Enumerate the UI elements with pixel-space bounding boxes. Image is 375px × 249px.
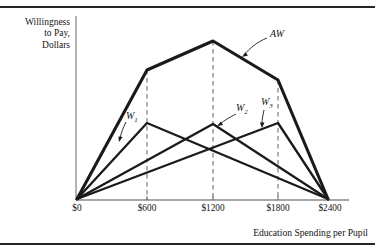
w1-arrowhead bbox=[118, 137, 122, 143]
curve-label-w2: W2 bbox=[236, 102, 248, 116]
w3-arrow bbox=[262, 110, 264, 124]
curve-label-w2-sub: 2 bbox=[244, 108, 248, 116]
aw-arrowhead bbox=[242, 52, 248, 57]
curve-label-w3: W3 bbox=[261, 96, 273, 110]
curve-label-w1-sub: 1 bbox=[134, 116, 138, 124]
y-axis-title: Willingness to Pay, Dollars bbox=[8, 17, 70, 51]
series-line-w3 bbox=[77, 123, 328, 199]
figure-container: Willingness to Pay, Dollars Education Sp… bbox=[0, 0, 375, 249]
x-tick-label-1800: $1800 bbox=[255, 203, 301, 213]
curve-label-w3-sub: 3 bbox=[269, 102, 273, 110]
series-line-w2 bbox=[77, 124, 328, 199]
x-tick-label-0: $0 bbox=[54, 203, 100, 213]
w1-arrow bbox=[120, 122, 126, 139]
x-tick-label-2400: $2400 bbox=[307, 203, 353, 213]
series-line-w1 bbox=[77, 123, 328, 199]
w2-arrow bbox=[220, 114, 236, 124]
aw-arrow bbox=[244, 38, 267, 55]
curve-label-aw-text: AW bbox=[270, 28, 284, 39]
x-tick-label-1200: $1200 bbox=[190, 203, 236, 213]
curve-label-w1: W1 bbox=[126, 110, 138, 124]
x-axis-title: Education Spending per Pupil bbox=[180, 227, 368, 238]
x-tick-label-600: $600 bbox=[124, 203, 170, 213]
curve-label-aw: AW bbox=[270, 28, 284, 39]
